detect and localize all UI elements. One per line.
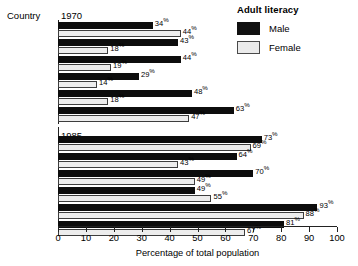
bar-rect-female xyxy=(58,144,251,151)
bar-female: 18% xyxy=(58,47,108,54)
bar-rect-male xyxy=(58,204,317,211)
axis-tick xyxy=(142,227,143,232)
axis-tick xyxy=(225,227,226,232)
bar-value-label: 18% xyxy=(110,44,124,53)
axis-tick-label: 70 xyxy=(248,233,258,243)
axis-tick-label: 60 xyxy=(220,233,230,243)
axis-tick xyxy=(170,227,171,232)
axis-tick xyxy=(86,227,87,232)
country-axis-title: Country xyxy=(7,10,40,21)
bar-rect-female xyxy=(58,195,211,202)
bar-rect-male xyxy=(58,107,234,114)
bar-value-label: 55% xyxy=(213,192,227,201)
axis-tick-label: 90 xyxy=(304,233,314,243)
bar-rect-male xyxy=(58,90,192,97)
bar-value-label: 19% xyxy=(113,61,127,70)
bar-value-label: 63% xyxy=(236,104,250,113)
bar-value-label: 47% xyxy=(191,112,205,121)
bar-rect-female xyxy=(58,30,181,37)
legend-item-female: Female xyxy=(237,41,355,54)
bar-female: 49% xyxy=(58,178,195,185)
bar-male: 48% xyxy=(58,90,192,97)
bar-rect-female xyxy=(58,178,195,185)
axis-tick xyxy=(114,227,115,232)
bar-rect-male xyxy=(58,170,253,177)
bar-male: 34% xyxy=(58,22,153,29)
bar-rect-male xyxy=(58,22,153,29)
bar-male: 63% xyxy=(58,107,234,114)
axis-tick xyxy=(58,227,59,232)
bar-value-label: 69% xyxy=(253,141,267,150)
legend-title: Adult literacy xyxy=(237,4,355,15)
x-axis-title: Percentage of total population xyxy=(58,248,337,258)
bar-female: 43% xyxy=(58,161,178,168)
bar-value-label: 44% xyxy=(183,53,197,62)
bar-male: 70% xyxy=(58,170,253,177)
bar-value-label: 93% xyxy=(319,201,333,210)
bar-value-label: 88% xyxy=(306,209,320,218)
legend-label-female: Female xyxy=(269,42,301,53)
axis-tick-label: 100 xyxy=(329,233,345,243)
chart-legend: Adult literacy Male Female xyxy=(237,4,355,60)
axis-tick xyxy=(281,227,282,232)
bar-rect-female xyxy=(58,115,189,122)
bar-rect-female xyxy=(58,161,178,168)
bar-male: 64% xyxy=(58,153,237,160)
bar-value-label: 43% xyxy=(180,36,194,45)
bar-value-label: 34% xyxy=(155,19,169,28)
bar-rect-male xyxy=(58,136,262,143)
bar-value-label: 43% xyxy=(180,158,194,167)
bar-value-label: 18% xyxy=(110,95,124,104)
bar-rect-female xyxy=(58,98,108,105)
axis-tick-label: 80 xyxy=(276,233,286,243)
bar-value-label: 49% xyxy=(197,184,211,193)
axis-tick xyxy=(337,227,338,232)
axis-tick xyxy=(309,227,310,232)
male-swatch-icon xyxy=(237,22,260,35)
legend-item-male: Male xyxy=(237,22,355,35)
bar-female: 14% xyxy=(58,81,97,88)
axis-tick-label: 40 xyxy=(164,233,174,243)
bar-rect-male xyxy=(58,153,237,160)
bar-value-label: 48% xyxy=(194,87,208,96)
bar-male: 73% xyxy=(58,136,262,143)
axis-tick xyxy=(253,227,254,232)
bar-rect-female xyxy=(58,212,304,219)
bar-male: 49% xyxy=(58,187,195,194)
bar-male: 93% xyxy=(58,204,317,211)
axis-tick-label: 20 xyxy=(109,233,119,243)
legend-label-male: Male xyxy=(269,23,290,34)
bar-female: 44% xyxy=(58,30,181,37)
bar-female: 18% xyxy=(58,98,108,105)
bar-female: 47% xyxy=(58,115,189,122)
axis-tick xyxy=(198,227,199,232)
bar-value-label: 14% xyxy=(99,78,113,87)
axis-tick-label: 10 xyxy=(81,233,91,243)
axis-tick-label: 50 xyxy=(192,233,202,243)
bar-female: 88% xyxy=(58,212,304,219)
bar-female: 55% xyxy=(58,195,211,202)
panel-title-1970: 1970 xyxy=(61,10,82,21)
axis-tick-label: 30 xyxy=(137,233,147,243)
bar-rect-female xyxy=(58,64,111,71)
bar-female: 19% xyxy=(58,64,111,71)
bar-rect-male xyxy=(58,187,195,194)
bar-rect-female xyxy=(58,81,97,88)
bar-rect-female xyxy=(58,47,108,54)
bar-value-label: 29% xyxy=(141,70,155,79)
chart-root: Adult literacy Male Female Country 1970 … xyxy=(0,0,358,266)
bar-value-label: 64% xyxy=(239,150,253,159)
bar-female: 69% xyxy=(58,144,251,151)
female-swatch-icon xyxy=(237,41,260,54)
axis-tick-label: 0 xyxy=(55,233,60,243)
bar-value-label: 70% xyxy=(255,167,269,176)
